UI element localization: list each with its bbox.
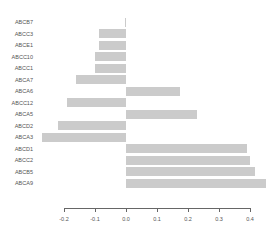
category-label: ABCB5 [15, 169, 33, 175]
bar [76, 75, 126, 84]
category-label: ABCA6 [15, 88, 33, 94]
category-label: ABCA5 [15, 111, 33, 117]
bar [126, 179, 266, 188]
x-tick [126, 208, 127, 212]
bar [126, 87, 180, 96]
bar [67, 98, 126, 107]
bar [95, 64, 126, 73]
x-tick-label: 0.4 [246, 216, 254, 222]
category-label: ABCA9 [15, 180, 33, 186]
bar [126, 156, 250, 165]
x-tick [95, 208, 96, 212]
x-tick-label: 0.2 [184, 216, 192, 222]
category-label: ABCC3 [15, 31, 33, 37]
x-tick [64, 208, 65, 212]
category-label: ABCC1 [15, 65, 33, 71]
bar [126, 110, 197, 119]
bar [99, 41, 126, 50]
bar [126, 144, 247, 153]
category-label: ABCA7 [15, 77, 33, 83]
x-tick [157, 208, 158, 212]
category-label: ABCB7 [15, 19, 33, 25]
bar [125, 18, 126, 27]
bar [42, 133, 126, 142]
bar [126, 167, 255, 176]
bar [99, 29, 126, 38]
category-label: ABCC2 [15, 157, 33, 163]
x-tick [188, 208, 189, 212]
bar [95, 52, 126, 61]
category-label: ABCE1 [15, 42, 33, 48]
bar-chart: ABCB7ABCC3ABCE1ABCC10ABCC1ABCA7ABCA6ABCC… [0, 0, 277, 235]
category-label: ABCC12 [12, 100, 33, 106]
x-tick [250, 208, 251, 212]
category-label: ABCA3 [15, 134, 33, 140]
x-tick-label: -0.1 [90, 216, 99, 222]
category-label: ABCD1 [15, 146, 33, 152]
category-label: ABCD2 [15, 123, 33, 129]
x-tick-label: 0.1 [153, 216, 161, 222]
bar [58, 121, 126, 130]
x-tick-label: 0.0 [122, 216, 130, 222]
x-tick [219, 208, 220, 212]
x-tick-label: -0.2 [59, 216, 68, 222]
category-label: ABCC10 [12, 54, 33, 60]
x-tick-label: 0.3 [215, 216, 223, 222]
